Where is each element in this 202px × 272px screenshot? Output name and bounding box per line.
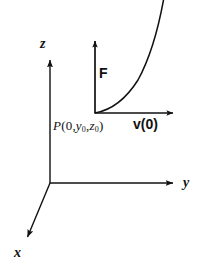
diagram-svg [0, 0, 202, 272]
trajectory-curve [95, 0, 164, 113]
y-axis-label: y [183, 176, 189, 190]
point-close-paren: ) [99, 118, 104, 133]
velocity-argument: (0) [141, 116, 158, 132]
figure-canvas: z y x F v(0) P(0,y0,z0) [0, 0, 202, 272]
point-symbol: P [53, 118, 61, 133]
x-axis-label: x [14, 246, 21, 260]
z-axis-label: z [40, 37, 45, 51]
velocity-symbol: v [133, 116, 141, 132]
force-vector-label: F [99, 66, 108, 80]
velocity-vector-label: v(0) [133, 117, 158, 131]
point-label: P(0,y0,z0) [53, 119, 103, 134]
coordinate-axes-group [28, 60, 174, 237]
point-coord-x: 0, [66, 118, 76, 133]
trajectory-curve-group [95, 0, 164, 113]
x-axis-line [28, 183, 51, 237]
